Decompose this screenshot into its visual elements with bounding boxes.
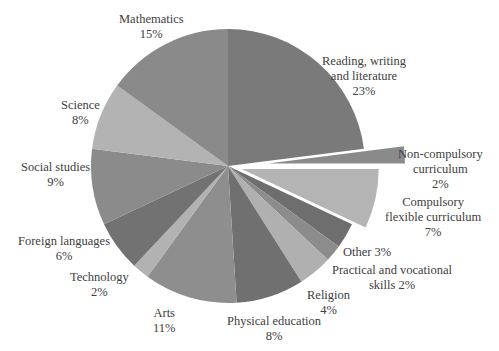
label-pe-line1: Physical education [227, 314, 321, 329]
label-science-line1: Science [61, 98, 100, 113]
label-science-pct: 8% [61, 113, 100, 128]
label-other-text: Other 3% [343, 245, 391, 260]
label-religion-line1: Religion [307, 288, 350, 303]
label-social-line1: Social studies [21, 160, 90, 175]
label-arts-pct: 11% [153, 321, 175, 336]
label-foreign-languages: Foreign languages 6% [18, 234, 110, 264]
label-compflex-pct: 7% [385, 225, 481, 240]
label-reading: Reading, writing and literature 23% [322, 54, 406, 99]
label-math-line1: Mathematics [119, 12, 184, 27]
label-foreign-line1: Foreign languages [18, 234, 110, 249]
label-social-studies: Social studies 9% [21, 160, 90, 190]
label-practical-line1: Practical and vocational [332, 263, 452, 278]
label-social-pct: 9% [21, 175, 90, 190]
label-physical-education: Physical education 8% [227, 314, 321, 344]
label-other: Other 3% [343, 245, 391, 260]
label-arts-line1: Arts [153, 306, 175, 321]
label-reading-line1: Reading, writing [322, 54, 406, 69]
label-compflex-line2: flexible curriculum [385, 210, 481, 225]
label-foreign-pct: 6% [18, 249, 110, 264]
label-mathematics: Mathematics 15% [119, 12, 184, 42]
label-math-pct: 15% [119, 27, 184, 42]
label-pe-pct: 8% [227, 329, 321, 344]
label-noncomp-pct: 2% [398, 177, 483, 192]
label-noncomp-line1: Non-compulsory [398, 147, 483, 162]
label-arts: Arts 11% [153, 306, 175, 336]
label-noncompulsory: Non-compulsory curriculum 2% [398, 147, 483, 192]
label-compulsory-flexible: Compulsory flexible curriculum 7% [385, 195, 481, 240]
label-technology-pct: 2% [70, 285, 129, 300]
label-compflex-line1: Compulsory [385, 195, 481, 210]
label-technology-line1: Technology [70, 270, 129, 285]
label-science: Science 8% [61, 98, 100, 128]
label-technology: Technology 2% [70, 270, 129, 300]
label-reading-line2: and literature [322, 69, 406, 84]
label-noncomp-line2: curriculum [398, 162, 483, 177]
label-reading-pct: 23% [322, 84, 406, 99]
